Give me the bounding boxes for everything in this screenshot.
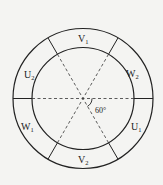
label-V2: V2 bbox=[78, 154, 88, 166]
label-U2: U2 bbox=[24, 69, 34, 81]
dashed-axes bbox=[32, 54, 134, 142]
winding-diagram: 60° V1 W2 U1 V2 W1 U2 bbox=[0, 0, 163, 185]
separator-240 bbox=[48, 143, 58, 159]
label-U1: U1 bbox=[131, 121, 141, 133]
separator-120 bbox=[48, 38, 58, 54]
angle-arc bbox=[88, 99, 93, 107]
label-W1: W1 bbox=[21, 121, 34, 133]
label-V1: V1 bbox=[78, 33, 88, 45]
separator-300 bbox=[109, 143, 119, 159]
angle-label: 60° bbox=[95, 106, 106, 115]
label-W2: W2 bbox=[126, 68, 139, 80]
separator-60 bbox=[109, 38, 119, 54]
